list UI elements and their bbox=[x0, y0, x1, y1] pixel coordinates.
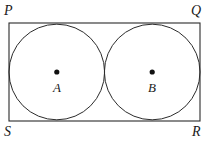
vertex-label-q: Q bbox=[191, 4, 201, 18]
vertex-label-p: P bbox=[4, 4, 13, 18]
center-dot-b bbox=[150, 69, 155, 74]
geometry-figure: P Q R S A B bbox=[0, 0, 209, 150]
vertex-label-r: R bbox=[192, 125, 201, 139]
circle-center-label-b: B bbox=[145, 81, 159, 94]
vertex-label-s: S bbox=[4, 125, 11, 139]
geometry-canvas bbox=[0, 0, 209, 150]
center-dot-a bbox=[54, 69, 59, 74]
circle-center-label-a: A bbox=[50, 81, 64, 94]
